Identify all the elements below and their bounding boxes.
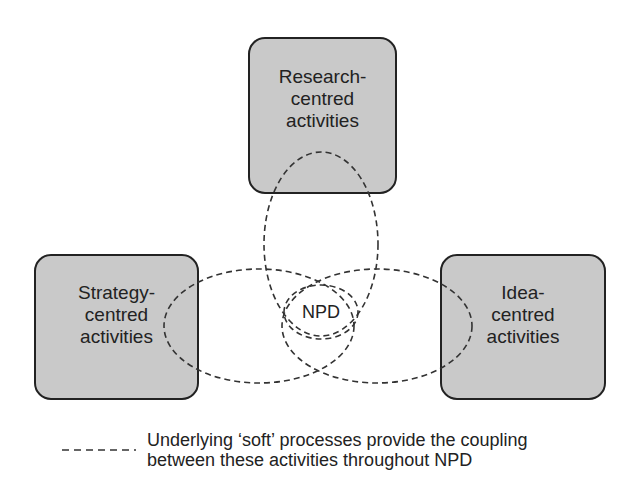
dashed-line-legend-icon bbox=[62, 449, 136, 451]
legend: Underlying ‘soft’ processes provide the … bbox=[60, 430, 620, 480]
research-box-label: Research- centred activities bbox=[279, 66, 367, 132]
research-centred-activities-box: Research- centred activities bbox=[248, 37, 397, 194]
legend-text: Underlying ‘soft’ processes provide the … bbox=[147, 430, 528, 470]
idea-box-label: Idea- centred activities bbox=[487, 282, 560, 348]
idea-centred-activities-box: Idea- centred activities bbox=[440, 254, 606, 400]
npd-label: NPD bbox=[296, 301, 346, 323]
strategy-box-label: Strategy- centred activities bbox=[78, 282, 155, 348]
strategy-centred-activities-box: Strategy- centred activities bbox=[34, 254, 199, 400]
